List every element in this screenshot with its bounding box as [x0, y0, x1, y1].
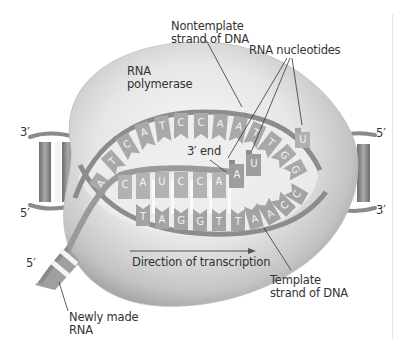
left-top-end-label: 3′ [20, 125, 30, 139]
base: C [122, 179, 129, 190]
base: C [198, 117, 205, 128]
frame-divider [392, 14, 393, 339]
base: A [140, 177, 147, 188]
direction-of-transcription-label: Direction of transcription [132, 256, 270, 269]
nontemplate-strand-label: Nontemplate strand of DNA [171, 20, 249, 46]
rna-polymerase-label: RNA polymerase [127, 65, 192, 91]
base: C [178, 176, 185, 187]
base: A [216, 176, 223, 187]
rna-nucleotides-label: RNA nucleotides [249, 44, 340, 57]
base: A [234, 169, 241, 180]
label-line: strand of DNA [270, 287, 348, 300]
base: C [178, 117, 185, 128]
base: A [216, 118, 224, 130]
base: C [197, 176, 204, 187]
base: G [177, 215, 185, 226]
base: A [159, 214, 166, 225]
newly-made-rna-leader [59, 282, 68, 311]
transcription-diagram: A T C A T C C A A T T G G C A U C C A [0, 0, 402, 339]
label-line: polymerase [127, 78, 192, 91]
newly-made-rna-strand [35, 248, 80, 290]
label-line: RNA [69, 324, 138, 337]
right-top-end-label: 5′ [376, 126, 386, 140]
base: G [196, 216, 204, 227]
left-bottom-end-label: 5′ [20, 206, 30, 220]
rna-five-prime-label: 5′ [26, 256, 36, 270]
three-prime-end-label: 3′ end [187, 145, 221, 158]
template-strand-label: Template strand of DNA [270, 274, 348, 300]
base: T [215, 216, 223, 227]
base: U [250, 158, 257, 169]
base: U [158, 176, 165, 187]
newly-made-rna-label: Newly made RNA [69, 311, 138, 337]
base: U [299, 134, 306, 145]
base: T [139, 211, 147, 222]
base: T [234, 216, 242, 227]
label-line: strand of DNA [171, 33, 249, 46]
right-bottom-end-label: 3′ [376, 203, 386, 217]
